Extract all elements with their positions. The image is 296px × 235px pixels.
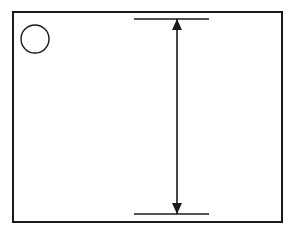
callout-circle [21,25,49,53]
figure-container [0,0,296,235]
spring-diagram [0,0,296,235]
callout-badge [21,25,49,53]
